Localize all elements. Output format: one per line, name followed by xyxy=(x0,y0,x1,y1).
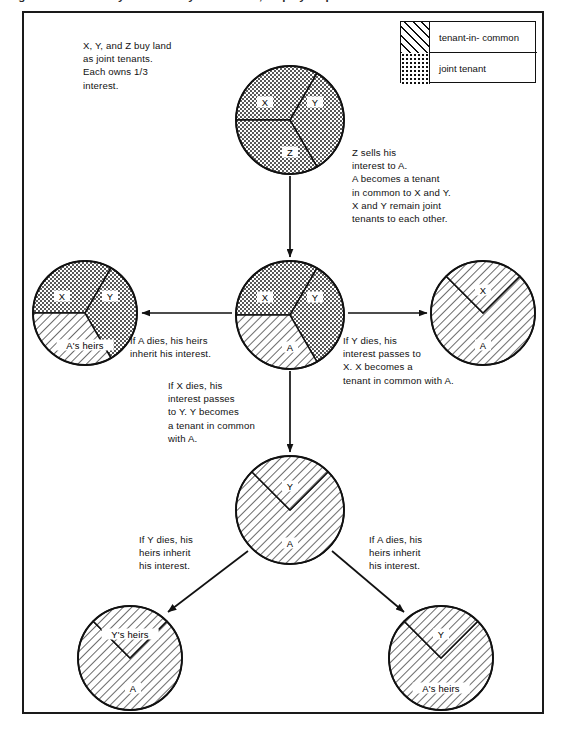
sector-label-xyz-joint-tenants-0: X xyxy=(257,97,273,108)
legend-swatch-dots xyxy=(401,53,430,84)
caption-y-dies-2: If Y dies, his heirs inherit his interes… xyxy=(139,533,249,573)
sector-label-xy-joint-a-common-1: Y xyxy=(307,292,323,303)
legend-label-joint-tenant: joint tenant xyxy=(439,53,486,84)
legend: tenant-in- common joint tenant xyxy=(400,21,536,83)
sector-label-xy-joint-a-common-2: A xyxy=(282,342,298,353)
sector-label-y-and-a-tenants-in-common-1: A xyxy=(282,538,298,549)
sector-label-xy-joint-a-common-0: X xyxy=(257,292,273,303)
circle-y-and-a-heirs-tenants-in-common xyxy=(389,606,493,710)
sector-label-x-and-a-tenants-in-common-0: X xyxy=(475,285,491,296)
sector-label-x-and-a-tenants-in-common-1: A xyxy=(475,340,491,351)
sector-label-xy-joint-a-heirs-common-0: X xyxy=(54,291,70,302)
sector-label-xy-joint-a-heirs-common-1: Y xyxy=(102,291,118,302)
sector-label-y-and-a-heirs-tenants-in-common-0: Y xyxy=(433,629,449,640)
caption-intro: X, Y, and Z buy land as joint tenants. E… xyxy=(83,39,243,92)
legend-label-tenant-in-common: tenant-in- common xyxy=(439,22,519,53)
sector-label-y-heirs-and-a-tenants-in-common-0: Y's heirs xyxy=(102,629,159,640)
sector-label-y-and-a-heirs-tenants-in-common-1: A's heirs xyxy=(413,683,470,694)
caption-a-dies-2: If A dies, his heirs inherit his interes… xyxy=(369,533,479,573)
caption-x-dies: If X dies, his interest passes to Y. Y b… xyxy=(168,379,314,445)
circle-xyz-joint-tenants xyxy=(236,66,344,174)
sector-label-y-and-a-tenants-in-common-0: Y xyxy=(282,481,298,492)
legend-row-tenant-in-common: tenant-in- common xyxy=(401,22,537,53)
legend-row-joint-tenant: joint tenant xyxy=(401,53,537,84)
diagram-root: Figure: Joint tenancy and tenancy in com… xyxy=(0,0,567,731)
sector-label-xy-joint-a-heirs-common-2: A's heirs xyxy=(57,340,114,351)
caption-z-sells: Z sells his interest to A. A becomes a t… xyxy=(352,146,527,225)
sector-label-xyz-joint-tenants-1: Y xyxy=(307,97,323,108)
caption-a-dies: If A dies, his heirs inherit his interes… xyxy=(130,334,270,360)
sector-label-xyz-joint-tenants-2: Z xyxy=(282,147,298,158)
legend-swatch-hatch xyxy=(401,22,430,53)
circle-y-heirs-and-a-tenants-in-common xyxy=(78,606,182,710)
sector-label-y-heirs-and-a-tenants-in-common-1: A xyxy=(125,683,141,694)
